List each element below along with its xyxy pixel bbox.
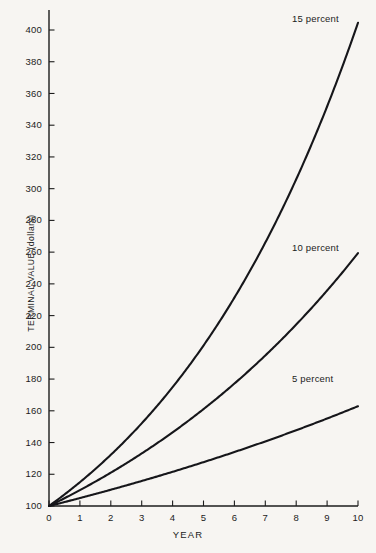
x-tick-label: 2 <box>108 513 113 523</box>
y-tick-label: 360 <box>8 89 42 99</box>
x-tick-label: 6 <box>232 513 237 523</box>
series-label: 10 percent <box>292 243 339 253</box>
y-tick-label: 120 <box>8 470 42 480</box>
y-tick-label: 200 <box>8 343 42 353</box>
x-tick-label: 8 <box>293 513 298 523</box>
series-curve-15-percent <box>49 23 358 506</box>
y-tick-label: 140 <box>8 438 42 448</box>
y-tick-label: 280 <box>8 216 42 226</box>
x-tick-label: 1 <box>77 513 82 523</box>
series-curve-5-percent <box>49 406 358 506</box>
y-axis-title: TERMINAL VALUE (dollars) <box>26 178 36 368</box>
series-label: 5 percent <box>292 374 333 384</box>
x-tick-label: 7 <box>263 513 268 523</box>
y-tick-label: 240 <box>8 279 42 289</box>
y-tick-label: 300 <box>8 184 42 194</box>
x-tick-label: 4 <box>170 513 175 523</box>
series-label: 15 percent <box>292 14 339 24</box>
y-tick-label: 340 <box>8 120 42 130</box>
chart-axes <box>49 10 358 506</box>
chart-tick-marks <box>49 30 358 506</box>
x-axis-title: YEAR <box>0 529 376 540</box>
y-tick-label: 260 <box>8 247 42 257</box>
chart-plot-area <box>0 0 376 553</box>
y-tick-label: 320 <box>8 152 42 162</box>
y-tick-label: 100 <box>8 501 42 511</box>
chart-series-curves <box>49 23 358 506</box>
x-tick-label: 10 <box>353 513 364 523</box>
y-tick-label: 160 <box>8 406 42 416</box>
x-tick-label: 9 <box>324 513 329 523</box>
x-tick-label: 5 <box>201 513 206 523</box>
y-tick-label: 180 <box>8 374 42 384</box>
x-tick-label: 0 <box>46 513 51 523</box>
y-tick-label: 220 <box>8 311 42 321</box>
chart-figure: 1001201401601802002202402602803003203403… <box>0 0 376 553</box>
x-tick-label: 3 <box>139 513 144 523</box>
y-tick-label: 380 <box>8 57 42 67</box>
y-tick-label: 400 <box>8 25 42 35</box>
